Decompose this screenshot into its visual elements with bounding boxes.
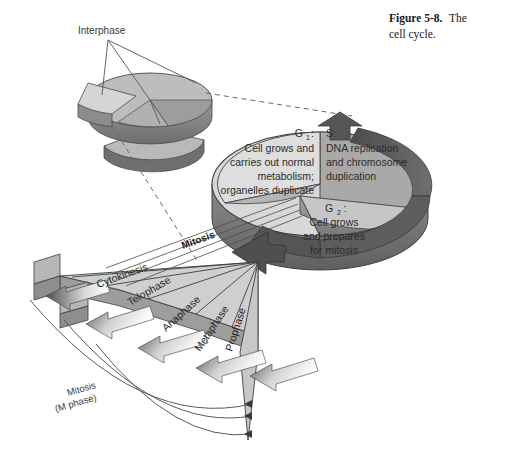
g1-line3: metabolism;	[257, 170, 314, 182]
figure-caption: Figure 5-8. The cell cycle.	[389, 12, 467, 41]
s-line2: and chromosome	[326, 156, 407, 168]
fan-label-mitosis-wedge: Mitosis	[180, 229, 217, 251]
g2-line1: Cell grows	[309, 216, 358, 228]
s-name: S:	[326, 127, 336, 139]
caption-text-line2: cell cycle.	[389, 28, 436, 41]
inset-pie-chart: Interphase	[78, 25, 212, 172]
caption-text-line1: The	[449, 12, 467, 24]
cell-cycle-illustration: Figure 5-8. The cell cycle. Interphase	[0, 0, 526, 475]
bracket-arc-third	[96, 344, 252, 435]
g2-name: G	[325, 202, 333, 214]
dashed-line-upper	[206, 93, 352, 116]
g1-line1: Cell grows and	[245, 142, 315, 154]
inset-label-interphase: Interphase	[78, 25, 126, 36]
fan-arrow-2	[86, 306, 154, 339]
g1-subscript: 1	[306, 134, 310, 141]
g2-subscript: 2	[337, 209, 341, 216]
g1-name: G	[295, 127, 303, 139]
g1-line4: organelles duplicate	[221, 184, 315, 196]
g2-colon: :	[344, 202, 347, 214]
pie-label-g1: G 1 : Cell grows and carries out normal …	[221, 127, 315, 196]
g1-colon: :	[311, 127, 314, 139]
g1-line2: carries out normal	[230, 156, 314, 168]
s-line3: duplication	[326, 170, 376, 182]
main-cell-cycle-pie: G 1 : Cell grows and carries out normal …	[212, 112, 432, 274]
caption-figure-number: Figure 5-8.	[389, 12, 443, 25]
g2-line3: for mitosis	[310, 244, 358, 256]
g2-line2: and prepares	[303, 230, 365, 242]
figure-cell-cycle: Figure 5-8. The cell cycle. Interphase	[0, 0, 526, 475]
s-line1: DNA replication	[326, 142, 399, 154]
